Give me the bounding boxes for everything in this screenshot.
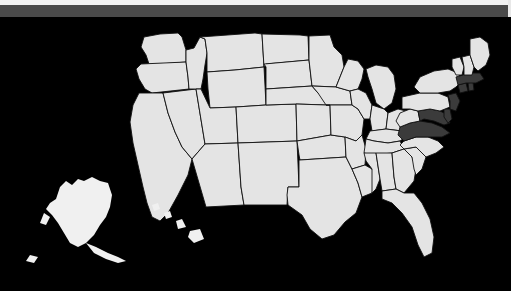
state-montana[interactable] [200,33,264,72]
state-indiana[interactable] [370,105,388,131]
state-pennsylvania[interactable] [402,93,450,111]
map-window [0,0,511,291]
state-kansas[interactable] [296,104,331,141]
map-canvas[interactable] [0,17,511,291]
state-idaho[interactable] [186,37,207,89]
state-wyoming[interactable] [207,67,266,108]
state-alaska[interactable] [26,177,126,263]
state-washington[interactable] [141,33,186,64]
state-south-dakota[interactable] [264,60,312,89]
united-states-map-svg[interactable] [0,17,511,291]
state-florida[interactable] [382,189,434,257]
state-arizona[interactable] [192,143,244,207]
state-colorado[interactable] [236,104,297,143]
state-new-jersey[interactable] [448,93,460,111]
state-oregon[interactable] [136,62,189,93]
window-title-bar [0,5,511,17]
state-hawaii[interactable] [152,203,204,243]
